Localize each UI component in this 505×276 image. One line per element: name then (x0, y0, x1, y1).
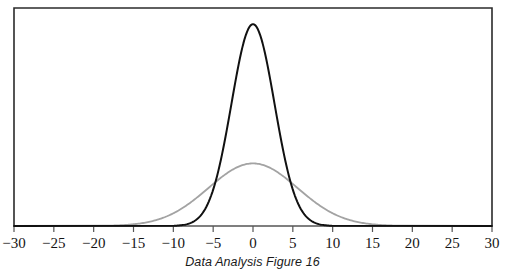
x-axis-tick-label: −25 (42, 235, 65, 251)
plot-frame (14, 8, 492, 226)
x-axis-tick-label: −20 (82, 235, 105, 251)
figure-container: −30−25−20−15−10−5051015202530 Data Analy… (0, 0, 505, 276)
figure-caption: Data Analysis Figure 16 (0, 255, 505, 269)
x-axis-tick-label: 10 (325, 235, 340, 251)
x-axis-tick-label: 15 (365, 235, 380, 251)
x-axis-tick-label: −30 (2, 235, 25, 251)
x-axis-ticks (14, 226, 492, 232)
x-axis-tick-label: −10 (162, 235, 185, 251)
x-axis-tick-label: 0 (249, 235, 257, 251)
x-axis-tick-label: 20 (405, 235, 420, 251)
x-axis-tick-label: −15 (122, 235, 145, 251)
x-axis-tick-label: 25 (445, 235, 460, 251)
x-axis-tick-label: 30 (485, 235, 500, 251)
x-axis-tick-label: 5 (289, 235, 297, 251)
wide-normal-curve (14, 163, 492, 226)
x-axis-tick-label: −5 (205, 235, 221, 251)
narrow-normal-curve (14, 24, 492, 226)
